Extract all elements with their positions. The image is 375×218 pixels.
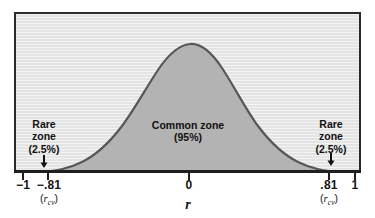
x-tick-label-zero: 0 — [186, 178, 193, 192]
rare-zone-right-line1: Rare — [316, 118, 347, 130]
distribution-figure: Rare zone (2.5%) Common zone (95%) Rare … — [0, 0, 375, 218]
rare-zone-right-line2: zone — [316, 130, 347, 142]
common-zone-label: Common zone (95%) — [152, 119, 224, 144]
plot-panel — [14, 12, 361, 172]
x-axis-title: r — [185, 197, 190, 213]
x-tick-sublabel-pos081: (rcv) — [320, 192, 338, 207]
x-tick-label-neg081: −.81 — [37, 178, 62, 192]
critical-value-subscript-left: cv — [48, 198, 55, 207]
rare-zone-left-line1: Rare — [29, 118, 60, 130]
x-tick-label-pos081: .81 — [320, 178, 337, 192]
rare-zone-left-label: Rare zone (2.5%) — [29, 118, 60, 155]
x-tick-label-pos1: 1 — [352, 178, 359, 192]
curve-fill — [16, 44, 361, 172]
rare-zone-left-line2: zone — [29, 130, 60, 142]
common-zone-percent: (95%) — [152, 131, 224, 143]
rare-zone-left-percent: (2.5%) — [29, 143, 60, 155]
common-zone-line1: Common zone — [152, 119, 224, 131]
x-tick-label-neg1: −1 — [16, 178, 30, 192]
rare-zone-right-pointer-arrow — [327, 153, 336, 166]
rare-zone-right-label: Rare zone (2.5%) — [316, 118, 347, 155]
x-tick-sublabel-neg081: (rcv) — [40, 192, 58, 207]
rare-zone-left-pointer-arrow — [40, 155, 49, 168]
critical-value-subscript-right: cv — [328, 198, 335, 207]
normal-curve — [16, 14, 361, 172]
